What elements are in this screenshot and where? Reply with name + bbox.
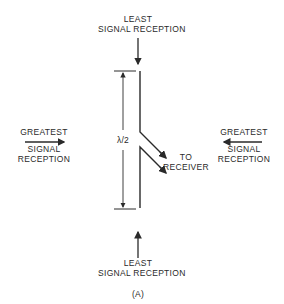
feed-label-line1: TO [161,152,211,162]
left-label-line1: GREATEST [16,127,72,137]
caption: (A) [128,289,148,299]
right-label-line2: SIGNAL [216,144,272,154]
left-label: GREATEST SIGNAL RECEPTION [16,127,72,164]
right-label-line1: GREATEST [216,127,272,137]
right-label: GREATEST SIGNAL RECEPTION [216,127,272,164]
top-label-line1: LEAST [98,14,178,24]
top-label: LEAST SIGNAL RECEPTION [98,14,178,34]
bottom-label-line1: LEAST [98,258,178,268]
dipole-lower-element [140,147,163,208]
bottom-label-line2: SIGNAL RECEPTION [98,268,178,278]
feed-label-line2: RECEIVER [161,162,211,172]
dimension-label: λ/2 [114,135,132,145]
left-label-line2: SIGNAL [16,144,72,154]
top-label-line2: SIGNAL RECEPTION [98,24,178,34]
right-label-line3: RECEPTION [216,154,272,164]
left-label-line3: RECEPTION [16,154,72,164]
dipole-upper-element [140,71,163,155]
feed-label: TO RECEIVER [161,152,211,172]
bottom-label: LEAST SIGNAL RECEPTION [98,258,178,278]
